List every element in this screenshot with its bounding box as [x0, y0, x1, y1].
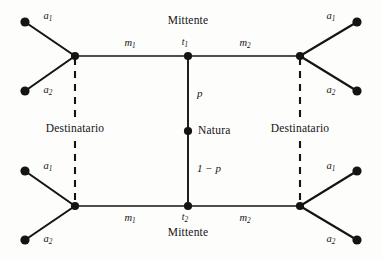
action-label-top-left-lower: a2	[44, 85, 53, 97]
message-label-top-left-subscript: 1	[132, 42, 136, 50]
action-label-bottom-left-lower: a2	[44, 234, 53, 246]
terminal-node	[20, 17, 29, 26]
player-label-sender-top: Mittente	[168, 15, 209, 27]
action-label-bottom-right-lower-subscript: 2	[332, 238, 336, 246]
message-label-bottom-right-base: m	[239, 212, 247, 223]
message-label-bottom-right-subscript: 2	[247, 217, 251, 225]
message-label-bottom-left: m1	[124, 213, 135, 225]
action-label-bottom-left-lower-subscript: 2	[49, 238, 53, 246]
node-receiver-bottom-right	[296, 202, 304, 210]
probability-label-bottom: 1 − p	[197, 163, 221, 174]
message-label-top-right: m2	[239, 38, 250, 50]
action-label-top-right-lower: a2	[327, 85, 336, 97]
message-label-top-right-base: m	[239, 37, 247, 48]
node-label-t1: t1	[182, 37, 188, 49]
node-t1	[184, 52, 192, 60]
action-label-top-left-upper: a1	[44, 11, 53, 23]
action-label-bottom-left-upper-subscript: 1	[49, 165, 53, 173]
terminal-node	[20, 86, 29, 95]
message-label-bottom-right: m2	[239, 213, 250, 225]
message-label-top-left: m1	[124, 38, 135, 50]
action-label-bottom-right-upper-subscript: 1	[332, 165, 336, 173]
terminal-node	[352, 17, 361, 26]
terminal-node	[352, 86, 361, 95]
message-label-top-right-subscript: 2	[247, 42, 251, 50]
action-label-top-left-upper-subscript: 1	[49, 15, 53, 23]
action-label-bottom-right-upper: a1	[327, 161, 336, 173]
message-label-bottom-left-subscript: 1	[132, 217, 136, 225]
terminal-node	[352, 166, 361, 175]
node-label-t1-subscript: 1	[185, 41, 189, 49]
action-label-top-right-lower-subscript: 2	[332, 89, 336, 97]
node-t2	[184, 202, 192, 210]
terminal-node	[20, 235, 29, 244]
player-label-sender-bottom: Mittente	[168, 227, 209, 239]
message-label-bottom-left-base: m	[124, 212, 132, 223]
node-label-t2: t2	[182, 212, 188, 224]
action-label-bottom-left-upper: a1	[44, 161, 53, 173]
player-label-receiver-right: Destinatario	[271, 123, 330, 135]
edge-action-bottom-left-upper	[25, 171, 75, 206]
action-label-bottom-right-lower: a2	[327, 234, 336, 246]
player-label-nature: Natura	[198, 125, 231, 137]
probability-label-top: p	[197, 88, 203, 99]
game-tree-diagram: Mittente Mittente Destinatario Destinata…	[0, 0, 382, 260]
edge-action-bottom-right-upper	[300, 171, 357, 206]
message-label-top-left-base: m	[124, 37, 132, 48]
node-label-t2-subscript: 2	[185, 216, 189, 224]
edge-action-top-right-upper	[300, 22, 357, 56]
node-receiver-bottom-left	[71, 202, 79, 210]
terminal-node	[20, 166, 29, 175]
terminal-node	[352, 235, 361, 244]
action-label-top-left-lower-subscript: 2	[49, 89, 53, 97]
node-nature	[184, 127, 192, 135]
edge-action-top-left-upper	[25, 22, 75, 56]
node-receiver-top-left	[71, 52, 79, 60]
node-receiver-top-right	[296, 52, 304, 60]
action-label-top-right-upper-subscript: 1	[332, 15, 336, 23]
action-label-top-right-upper: a1	[327, 11, 336, 23]
player-label-receiver-left: Destinatario	[46, 123, 105, 135]
